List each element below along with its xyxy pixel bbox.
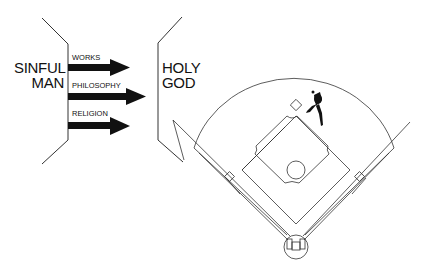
philosophy-label: PHILOSOPHY — [72, 82, 121, 90]
religion-arrow-icon — [68, 117, 130, 135]
holy-god-line1: HOLY — [162, 60, 201, 75]
holy-god-label: HOLY GOD — [162, 60, 201, 90]
diagram-canvas — [0, 0, 423, 278]
left-bracket — [42, 18, 68, 164]
religion-label: RELIGION — [72, 110, 108, 118]
sinful-man-line1: SINFUL — [14, 60, 64, 75]
holy-god-line2: GOD — [162, 75, 201, 90]
sinful-man-label: SINFUL MAN — [14, 60, 64, 90]
philosophy-arrow-icon — [68, 88, 146, 105]
works-label: WORKS — [72, 54, 100, 62]
pitcher-figure-icon — [306, 91, 323, 127]
baseball-field-icon — [173, 78, 410, 259]
sinful-man-line2: MAN — [14, 75, 64, 90]
